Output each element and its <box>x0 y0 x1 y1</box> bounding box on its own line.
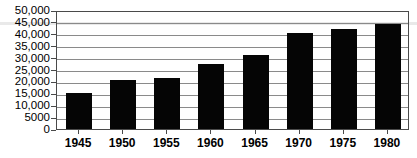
bar <box>154 78 180 129</box>
y-axis-label: 50,000 <box>0 5 50 17</box>
gridline <box>57 23 408 24</box>
x-axis-tick <box>122 130 123 134</box>
x-axis-tick <box>387 130 388 134</box>
plot-area <box>56 11 409 130</box>
bar <box>331 29 357 129</box>
y-axis-label: 25,000 <box>0 65 50 77</box>
y-axis-label-group: 0500010,00015,00020,00025,00030,00035,00… <box>0 0 50 158</box>
x-axis-tick <box>255 130 256 134</box>
y-axis-label: 10,000 <box>0 100 50 112</box>
y-axis-label: 45,000 <box>0 17 50 29</box>
y-axis-label: 0 <box>0 124 50 136</box>
bar <box>198 64 224 129</box>
y-axis-label: 15,000 <box>0 88 50 100</box>
x-axis-tick <box>210 130 211 134</box>
bar <box>375 24 401 129</box>
x-axis-label: 1980 <box>374 136 401 150</box>
x-axis-label: 1970 <box>285 136 312 150</box>
x-axis-label: 1945 <box>65 136 92 150</box>
bar <box>243 55 269 129</box>
x-axis-tick <box>343 130 344 134</box>
y-axis-label: 35,000 <box>0 41 50 53</box>
x-axis-tick <box>166 130 167 134</box>
y-axis-label: 40,000 <box>0 29 50 41</box>
x-axis-label: 1955 <box>153 136 180 150</box>
bar <box>66 93 92 129</box>
x-axis-tick <box>78 130 79 134</box>
x-axis-label: 1965 <box>241 136 268 150</box>
bar-chart: 0500010,00015,00020,00025,00030,00035,00… <box>0 0 417 158</box>
y-axis-label: 5000 <box>0 112 50 124</box>
bar <box>110 80 136 129</box>
x-axis-tick <box>299 130 300 134</box>
x-axis-label: 1960 <box>197 136 224 150</box>
y-axis-label: 20,000 <box>0 76 50 88</box>
x-axis-label: 1950 <box>109 136 136 150</box>
y-axis-label: 30,000 <box>0 53 50 65</box>
x-axis-label: 1975 <box>329 136 356 150</box>
bar <box>287 33 313 129</box>
